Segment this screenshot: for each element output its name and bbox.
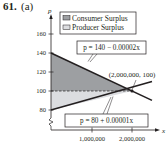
surplus-chart: 160 140 120 100 80 p 1,000,000 2,000,000… xyxy=(0,0,166,143)
y-tick-80: 80 xyxy=(40,106,47,113)
legend: Consumer Surplus Producer Surplus xyxy=(60,12,136,34)
x-axis-label: x xyxy=(161,127,166,135)
y-tick-100: 100 xyxy=(36,87,46,94)
legend-swatch-consumer xyxy=(63,16,70,21)
demand-equation-callout: p = 140 − 0.00002x xyxy=(77,41,146,62)
y-tick-120: 120 xyxy=(36,68,46,75)
legend-label-consumer: Consumer Surplus xyxy=(72,14,128,23)
x-tick-2000000: 2,000,000 xyxy=(119,135,145,142)
x-axis: 1,000,000 2,000,000 x xyxy=(51,127,166,142)
legend-swatch-producer xyxy=(63,25,70,30)
y-tick-160: 160 xyxy=(36,30,46,37)
legend-label-producer: Producer Surplus xyxy=(72,23,124,32)
y-axis: 160 140 120 100 80 p xyxy=(36,7,53,130)
y-tick-140: 140 xyxy=(36,49,46,56)
y-axis-label: p xyxy=(47,7,52,15)
equilibrium-leader xyxy=(132,80,136,90)
x-tick-1000000: 1,000,000 xyxy=(79,135,105,142)
demand-equation: p = 140 − 0.00002x xyxy=(83,44,140,52)
equilibrium-label: (2,000,000, 100) xyxy=(109,71,156,79)
supply-equation: p = 80 + 0.00001x xyxy=(80,117,133,125)
